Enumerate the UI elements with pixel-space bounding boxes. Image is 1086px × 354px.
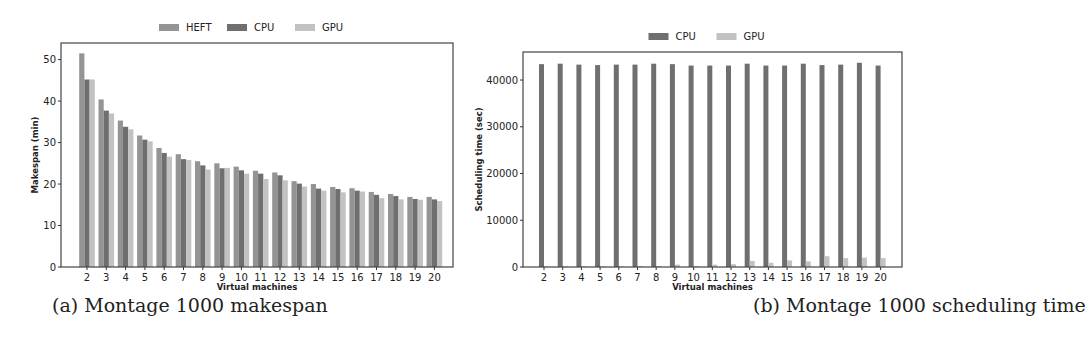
x-tick-label: 4 (578, 272, 584, 283)
bar-gpu-vm18 (843, 258, 848, 267)
bar-cpu-vm6 (162, 153, 167, 267)
x-axis-label: Virtual machines (672, 282, 753, 290)
bar-cpu-vm2 (539, 64, 544, 267)
bar-gpu-vm8 (205, 170, 210, 267)
bar-gpu-vm6 (167, 157, 172, 267)
legend-item-cpu: CPU (649, 31, 696, 42)
x-tick-label: 18 (389, 272, 402, 283)
bar-cpu-vm3 (558, 64, 563, 267)
bar-gpu-vm19 (418, 200, 423, 267)
bar-heft-vm10 (234, 167, 239, 267)
bars (79, 53, 442, 267)
y-tick-label: 0 (512, 262, 518, 273)
legend-swatch (159, 24, 179, 31)
bar-cpu-vm16 (801, 64, 806, 267)
bar-gpu-vm10 (244, 174, 249, 267)
bar-cpu-vm4 (123, 127, 128, 267)
bar-cpu-vm13 (297, 184, 302, 267)
bar-cpu-vm3 (104, 111, 109, 267)
bar-gpu-vm3 (109, 114, 114, 267)
x-tick-label: 20 (874, 272, 887, 283)
bar-heft-vm7 (176, 154, 181, 267)
bar-heft-vm15 (330, 187, 335, 267)
bar-gpu-vm19 (862, 258, 867, 267)
bar-cpu-vm6 (614, 65, 619, 267)
legend: HEFTCPUGPU (159, 22, 343, 33)
bar-cpu-vm15 (782, 66, 787, 267)
bar-heft-vm14 (311, 184, 316, 267)
bar-cpu-vm20 (432, 199, 437, 267)
bar-gpu-vm15 (787, 260, 792, 267)
y-tick-label: 30 (43, 137, 56, 148)
bar-gpu-vm20 (437, 201, 442, 267)
y-axis-label: Scheduling time (sec) (474, 107, 484, 211)
bar-gpu-vm16 (360, 192, 365, 267)
bar-cpu-vm9 (220, 168, 225, 267)
bar-heft-vm18 (388, 194, 393, 267)
bar-gpu-vm13 (302, 187, 307, 267)
legend: CPUGPU (649, 31, 765, 42)
bar-cpu-vm13 (745, 64, 750, 267)
bar-heft-vm13 (292, 181, 297, 267)
bar-heft-vm11 (253, 171, 258, 267)
y-tick-label: 10 (43, 220, 56, 231)
bar-heft-vm17 (369, 192, 374, 267)
bar-gpu-vm7 (186, 160, 191, 267)
x-tick-label: 19 (856, 272, 869, 283)
legend-label: CPU (676, 31, 696, 42)
y-tick-label: 40000 (486, 75, 518, 86)
bar-cpu-vm20 (876, 66, 881, 267)
bar-cpu-vm17 (820, 65, 825, 267)
bar-cpu-vm12 (726, 66, 731, 267)
bar-cpu-vm14 (316, 189, 321, 267)
x-tick-label: 15 (332, 272, 345, 283)
bar-cpu-vm18 (393, 196, 398, 267)
legend-label: CPU (254, 22, 274, 33)
bar-cpu-vm19 (413, 199, 418, 267)
x-tick-label: 7 (634, 272, 640, 283)
makespan-bar-chart: HEFTCPUGPU234567891011121314151617181920… (0, 0, 468, 290)
x-tick-label: 15 (781, 272, 794, 283)
bar-heft-vm19 (407, 197, 412, 267)
bar-cpu-vm7 (181, 159, 186, 267)
bar-gpu-vm11 (263, 179, 268, 267)
bar-cpu-vm8 (651, 64, 656, 267)
bar-cpu-vm18 (838, 65, 843, 267)
bar-gpu-vm20 (881, 258, 886, 267)
legend-item-gpu: GPU (717, 31, 765, 42)
bar-gpu-vm13 (750, 261, 755, 267)
bar-heft-vm3 (99, 99, 104, 267)
bar-gpu-vm14 (321, 191, 326, 267)
y-tick-label: 0 (50, 262, 56, 273)
x-tick-label: 3 (560, 272, 566, 283)
x-axis-label: Virtual machines (217, 282, 298, 290)
x-tick-label: 2 (84, 272, 90, 283)
y-tick-label: 40 (43, 96, 56, 107)
bar-heft-vm9 (214, 163, 219, 267)
bar-gpu-vm18 (398, 199, 403, 267)
legend-item-gpu: GPU (295, 22, 343, 33)
x-tick-label: 2 (541, 272, 547, 283)
figure-caption-a: (a) Montage 1000 makespan (52, 294, 328, 316)
bar-gpu-vm17 (379, 198, 384, 267)
x-tick-label: 7 (180, 272, 186, 283)
x-tick-label: 5 (597, 272, 603, 283)
bar-cpu-vm8 (200, 165, 205, 267)
x-tick-label: 6 (616, 272, 622, 283)
bar-cpu-vm7 (633, 65, 638, 267)
bar-cpu-vm10 (689, 66, 694, 267)
legend-swatch (649, 33, 669, 40)
bar-cpu-vm5 (142, 140, 147, 267)
legend-swatch (227, 24, 247, 31)
bar-cpu-vm2 (84, 80, 89, 267)
bar-heft-vm12 (272, 172, 277, 267)
bar-cpu-vm12 (277, 175, 282, 267)
bar-cpu-vm19 (857, 63, 862, 267)
x-tick-label: 17 (370, 272, 383, 283)
x-tick-label: 3 (103, 272, 109, 283)
x-tick-label: 6 (161, 272, 167, 283)
x-tick-label: 20 (428, 272, 441, 283)
bar-cpu-vm4 (576, 65, 581, 267)
legend-swatch (717, 33, 737, 40)
x-tick-label: 5 (142, 272, 148, 283)
